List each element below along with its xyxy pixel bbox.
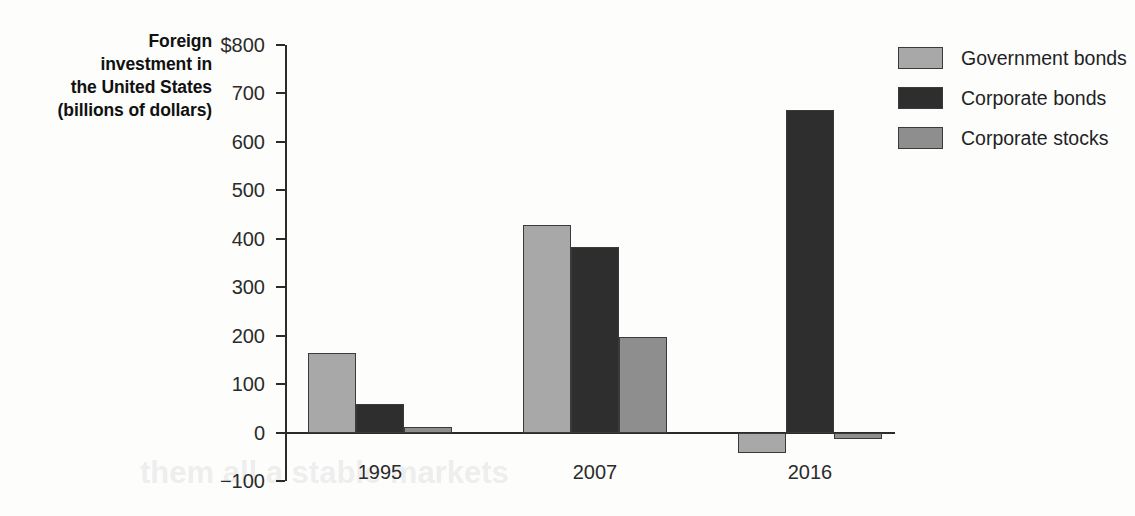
x-axis-group-label: 1995	[358, 461, 403, 484]
bar	[834, 433, 882, 439]
y-axis-tick	[276, 432, 285, 434]
y-axis-tick-labels: $8007006005004003002001000−100	[191, 45, 265, 481]
y-axis-tick-label: 400	[191, 227, 265, 250]
y-axis-tick	[276, 335, 285, 337]
legend-label: Government bonds	[961, 47, 1127, 70]
legend: Government bondsCorporate bondsCorporate…	[898, 38, 1127, 158]
bar	[738, 433, 786, 454]
y-axis-tick	[276, 286, 285, 288]
y-axis-tick	[276, 238, 285, 240]
y-axis-title: Foreign investment in the United States …	[20, 30, 212, 122]
y-axis-tick	[276, 383, 285, 385]
bar	[619, 337, 667, 433]
y-axis-tick	[276, 92, 285, 94]
y-axis-tick-label: 200	[191, 324, 265, 347]
plot-area: $8007006005004003002001000−100 199520072…	[285, 45, 895, 481]
y-axis-title-line-3: the United States	[20, 76, 212, 99]
y-axis-tick-label: 300	[191, 276, 265, 299]
y-axis-title-line-2: investment in	[20, 53, 212, 76]
y-axis-spine	[285, 45, 287, 481]
y-axis-tick-label: 100	[191, 373, 265, 396]
legend-label: Corporate bonds	[961, 87, 1106, 110]
legend-swatch	[898, 127, 943, 149]
chart-figure: them all a stable markets Foreign invest…	[0, 0, 1135, 516]
y-axis-tick	[276, 189, 285, 191]
y-axis-title-line-4: (billions of dollars)	[20, 99, 212, 122]
y-axis-tick-label: 700	[191, 82, 265, 105]
x-axis-group-label: 2016	[788, 461, 833, 484]
bar	[786, 110, 834, 432]
legend-item: Corporate stocks	[898, 118, 1127, 158]
y-axis-tick-label: −100	[191, 470, 265, 493]
y-axis-tick	[276, 44, 285, 46]
bar	[404, 427, 452, 433]
y-axis-tick-label: 600	[191, 130, 265, 153]
legend-item: Government bonds	[898, 38, 1127, 78]
bar	[356, 404, 404, 432]
y-axis-tick-label: 500	[191, 179, 265, 202]
legend-swatch	[898, 47, 943, 69]
y-axis-tick-label: 0	[191, 421, 265, 444]
y-axis-tick	[276, 480, 285, 482]
bar	[308, 353, 356, 433]
bar	[571, 247, 619, 433]
x-axis-group-label: 2007	[573, 461, 618, 484]
legend-label: Corporate stocks	[961, 127, 1108, 150]
bar	[523, 225, 571, 432]
y-axis-tick	[276, 141, 285, 143]
legend-item: Corporate bonds	[898, 78, 1127, 118]
y-axis-title-line-1: Foreign	[20, 30, 212, 53]
y-axis-tick-label: $800	[191, 34, 265, 57]
legend-swatch	[898, 87, 943, 109]
